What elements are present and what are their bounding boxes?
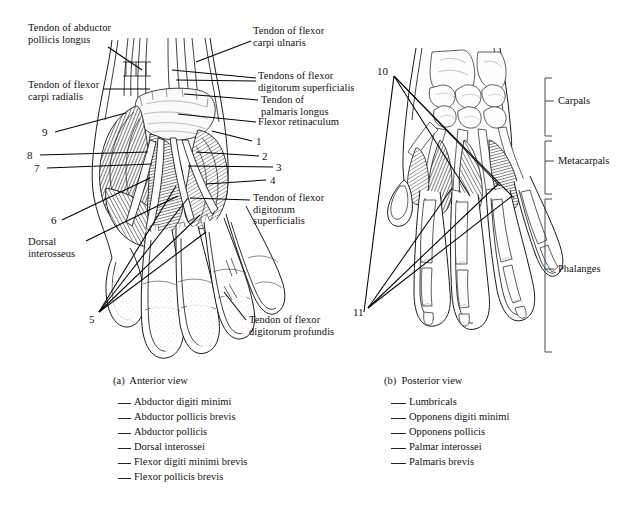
legend-item-lumbricals: Lumbricals xyxy=(409,396,457,408)
label-tendon-abductor-pollicis-longus: Tendon of abductor pollicis longus xyxy=(28,22,111,45)
legend-blank-right-1[interactable] xyxy=(391,418,406,419)
figure-canvas: Tendon of abductor pollicis longus Tendo… xyxy=(0,0,636,509)
legend-blank-left-5[interactable] xyxy=(118,478,131,479)
legend-item-flexor-pollicis-brevis: Flexor pollicis brevis xyxy=(134,471,223,483)
callout-number-11: 11 xyxy=(353,307,364,318)
callout-number-10: 10 xyxy=(377,66,388,77)
label-tendon-palmaris-longus: Tendon of palmaris longus xyxy=(261,94,329,117)
legend-item-palmaris-brevis: Palmaris brevis xyxy=(409,456,474,468)
legend-blank-left-1[interactable] xyxy=(118,418,131,419)
callout-number-7: 7 xyxy=(34,163,40,174)
caption-anterior-view: (a) Anterior view xyxy=(113,375,188,387)
legend-blank-left-4[interactable] xyxy=(118,463,131,464)
label-tendons-flexor-digitorum-superficialis: Tendons of flexor digitorum superficiali… xyxy=(258,70,355,93)
legend-item-flexor-digiti-minimi-brevis: Flexor digiti minimi brevis xyxy=(134,456,247,468)
callout-number-1: 1 xyxy=(256,136,262,147)
legend-blank-right-4[interactable] xyxy=(391,463,406,464)
legend-blank-left-2[interactable] xyxy=(118,433,131,434)
label-tendon-flexor-carpi-radialis: Tendon of flexor carpi radialis xyxy=(28,79,99,102)
legend-blank-right-2[interactable] xyxy=(391,433,406,434)
legend-blank-left-0[interactable] xyxy=(118,403,131,404)
legend-item-abductor-pollicis-brevis: Abductor pollicis brevis xyxy=(134,411,235,423)
legend-blank-left-3[interactable] xyxy=(118,448,131,449)
callout-number-8: 8 xyxy=(27,150,33,161)
callout-number-3: 3 xyxy=(276,162,282,173)
posterior-hand-drawing xyxy=(388,48,563,329)
callout-number-9: 9 xyxy=(42,127,48,138)
callout-number-6: 6 xyxy=(51,215,57,226)
legend-blank-right-3[interactable] xyxy=(391,448,406,449)
legend-item-opponens-pollicis: Opponens pollicis xyxy=(409,426,485,438)
label-tendon-flexor-digitorum-superficialis-lower: Tendon of flexor digitorum superficialis xyxy=(253,192,324,227)
legend-item-abductor-pollicis: Abductor pollicis xyxy=(134,426,207,438)
label-flexor-retinaculum: Flexor retinaculum xyxy=(258,116,339,128)
callout-number-4: 4 xyxy=(270,175,276,186)
legend-item-abductor-digiti-minimi: Abductor digiti minimi xyxy=(134,396,231,408)
label-tendon-flexor-digitorum-profundis: Tendon of flexor digitorum profundis xyxy=(249,314,334,337)
label-tendon-flexor-carpi-ulnaris: Tendon of flexor carpi ulnaris xyxy=(253,25,324,48)
legend-blank-right-0[interactable] xyxy=(391,403,406,404)
label-dorsal-interosseus: Dorsal interosseus xyxy=(28,236,75,259)
bracket-label-metacarpals: Metacarpals xyxy=(558,155,609,166)
legend-item-palmar-interossei: Palmar interossei xyxy=(409,441,482,453)
legend-item-opponens-digiti-minimi: Opponens digiti minimi xyxy=(409,411,509,423)
caption-posterior-view: (b) Posterior view xyxy=(384,375,462,387)
callout-number-5: 5 xyxy=(89,314,95,325)
legend-item-dorsal-interossei: Dorsal interossei xyxy=(134,441,205,453)
bracket-label-carpals: Carpals xyxy=(558,95,590,106)
callout-number-2: 2 xyxy=(262,151,268,162)
bracket-label-phalanges: Phalanges xyxy=(558,263,601,274)
